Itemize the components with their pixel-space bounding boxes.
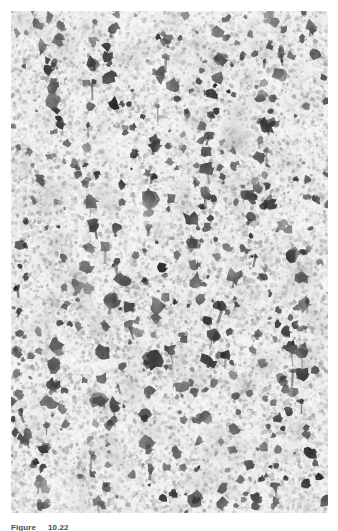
micrograph-canvas (11, 11, 328, 513)
figure-page: Figure10.22 (0, 0, 338, 531)
micrograph-plate (11, 11, 328, 513)
figure-caption: Figure10.22 (11, 520, 321, 531)
figure-caption-label: Figure (11, 523, 36, 531)
figure-caption-number: 10.22 (48, 523, 69, 531)
